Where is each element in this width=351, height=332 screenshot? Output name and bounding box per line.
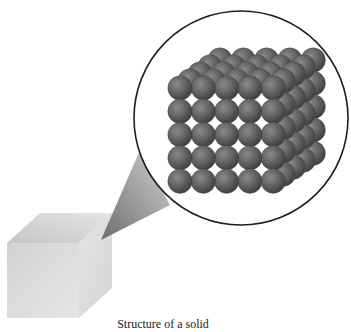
atom-sphere	[168, 76, 192, 100]
atom-sphere	[191, 122, 215, 146]
atom-sphere	[214, 99, 238, 123]
atom-sphere	[191, 76, 215, 100]
atom-sphere	[191, 169, 215, 193]
atom-sphere	[261, 122, 285, 146]
atom-sphere	[214, 76, 238, 100]
atom-sphere	[238, 76, 262, 100]
atom-sphere	[168, 169, 192, 193]
atom-sphere	[191, 99, 215, 123]
atom-sphere	[261, 169, 285, 193]
atom-sphere	[168, 99, 192, 123]
atom-sphere	[168, 146, 192, 170]
atom-sphere	[261, 76, 285, 100]
figure-caption: Structure of a solid	[0, 317, 326, 332]
atom-sphere	[238, 99, 262, 123]
atom-sphere	[214, 169, 238, 193]
macroscopic-cube	[7, 213, 112, 318]
atom-sphere	[214, 146, 238, 170]
atom-sphere	[238, 169, 262, 193]
atom-sphere	[168, 122, 192, 146]
magnified-view	[134, 11, 348, 225]
atom-sphere	[214, 122, 238, 146]
atom-sphere	[238, 122, 262, 146]
cube-front-face	[7, 243, 79, 318]
atom-sphere	[261, 99, 285, 123]
solid-structure-diagram	[0, 0, 351, 332]
atom-sphere	[261, 146, 285, 170]
atom-sphere	[238, 146, 262, 170]
atom-sphere	[191, 146, 215, 170]
